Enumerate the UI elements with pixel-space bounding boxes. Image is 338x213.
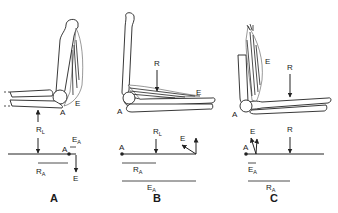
resistance-label: RL	[36, 125, 45, 135]
resistance-label: RL	[153, 127, 162, 137]
arm-fulcrum-label: A	[232, 110, 238, 119]
lever-fulcrum-label: A	[243, 143, 249, 152]
panel-c: R E A A E R EA RA C	[232, 24, 331, 204]
arm-fulcrum-label: A	[60, 108, 66, 117]
lever-schematic-a: A RL E EA RA	[8, 125, 81, 183]
arm-resistance-label: R	[287, 63, 293, 72]
resistance-label: R	[287, 125, 293, 134]
panel-b: R E A A RL E RA EA B	[117, 13, 215, 204]
arm-illustration-c: R E A	[232, 24, 331, 119]
effort-label: E	[73, 174, 78, 183]
resistance-arm-label: RA	[36, 167, 46, 177]
resistance-arm-label: RA	[133, 165, 143, 175]
effort-arrow-vertical	[256, 139, 257, 154]
arm-illustration-a: A E	[4, 19, 83, 122]
panel-label-c: C	[270, 192, 278, 204]
arm-effort-label: E	[265, 57, 270, 66]
panel-label-b: B	[153, 192, 161, 204]
fulcrum-dot	[120, 152, 124, 156]
effort-arrow-diagonal	[182, 145, 196, 154]
lever-diagram-figure: A E A RL E EA RA A	[0, 0, 338, 213]
panel-a: A E A RL E EA RA A	[4, 19, 83, 204]
lever-fulcrum-label: A	[62, 145, 68, 154]
arm-fulcrum-label: A	[117, 107, 123, 116]
effort-arm-label: EA	[72, 135, 81, 145]
arm-effort-label: E	[196, 88, 201, 97]
lever-schematic-b: A RL E RA EA	[119, 127, 196, 193]
lever-schematic-c: A E R EA RA	[243, 125, 324, 193]
arm-illustration-b: R E A	[117, 13, 215, 116]
effort-arrow-diagonal	[251, 138, 256, 154]
effort-label: E	[250, 127, 255, 136]
effort-arm-label: EA	[248, 165, 257, 175]
fulcrum-dot	[244, 152, 248, 156]
panel-label-a: A	[50, 192, 58, 204]
lever-fulcrum-label: A	[119, 143, 125, 152]
arm-effort-label: E	[75, 99, 80, 108]
arm-resistance-label: R	[154, 59, 160, 68]
effort-label: E	[180, 134, 185, 143]
